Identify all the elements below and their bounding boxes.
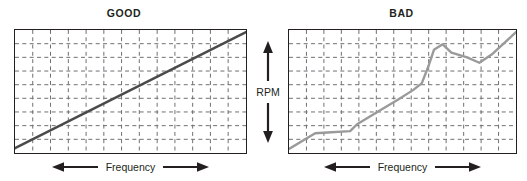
x-axis-label-good: Frequency: [106, 161, 156, 173]
plot-area-good: [14, 29, 247, 154]
arrow-down-icon: [261, 101, 275, 143]
figure-container: GOOD: [0, 0, 527, 181]
arrow-up-icon: [261, 41, 275, 83]
panel-title-bad: BAD: [276, 7, 527, 19]
x-axis-label-bad: Frequency: [378, 161, 428, 173]
x-axis-caption-good: Frequency: [14, 158, 247, 176]
arrow-right-icon: [161, 161, 209, 173]
panel-title-good: GOOD: [0, 7, 262, 19]
trace-bad: [289, 30, 516, 153]
plot-area-bad: [288, 29, 517, 154]
panel-good: GOOD: [0, 0, 262, 181]
x-axis-caption-bad: Frequency: [288, 158, 517, 176]
trace-good: [15, 30, 246, 153]
panel-bad: BAD: [276, 0, 527, 181]
arrow-left-icon: [324, 161, 372, 173]
arrow-right-icon: [433, 161, 481, 173]
arrow-left-icon: [52, 161, 100, 173]
